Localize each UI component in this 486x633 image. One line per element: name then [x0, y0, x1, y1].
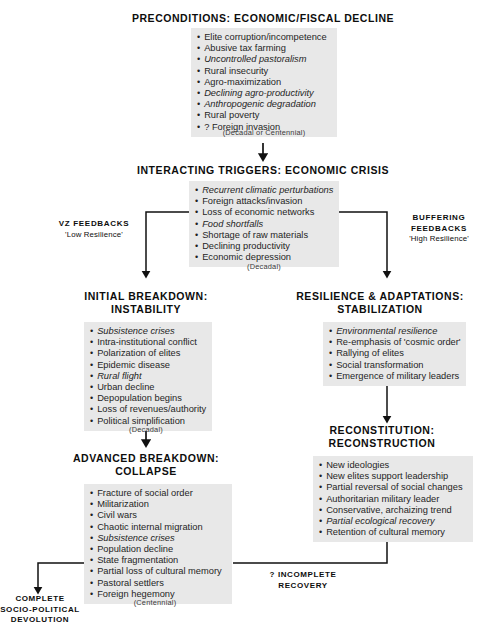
list-preconditions: Elite corruption/incompetenceAbusive tax… [197, 32, 331, 133]
box-reconstitution: New ideologiesNew elites support leaders… [313, 456, 473, 542]
list-item: Rural flight [90, 371, 206, 382]
list-item: Retention of cultural memory [319, 527, 467, 538]
list-item: Authoritarian military leader [319, 494, 467, 505]
period-label-3: (Decadal) [104, 425, 188, 434]
label-buffering-feedbacks: BUFFERING FEEDBACKS 'High Resilience' [395, 213, 483, 245]
list-item: Fracture of social order [90, 488, 226, 499]
list-item: Foreign attacks/invasion [195, 196, 333, 207]
label-incomplete-recovery: ? INCOMPLETE RECOVERY [248, 570, 358, 591]
heading-advanced-breakdown-l2: COLLAPSE [115, 465, 177, 477]
list-item: Depopulation begins [90, 393, 206, 404]
recovery-l2: RECOVERY [278, 581, 327, 590]
list-item: Declining agro-productivity [197, 88, 331, 99]
list-resilience: Environmental resilienceRe-emphasis of '… [329, 326, 460, 382]
devolution-l1: COMPLETE [15, 594, 64, 603]
list-item: Subsistence crises [90, 326, 206, 337]
list-advanced-breakdown: Fracture of social orderMilitarizationCi… [90, 488, 226, 600]
list-item: Pastoral settlers [90, 578, 226, 589]
heading-resilience: RESILIENCE & ADAPTATIONS: STABILIZATION [275, 290, 485, 315]
list-item: Loss of revenues/authority [90, 404, 206, 415]
heading-resilience-l1: RESILIENCE & ADAPTATIONS: [296, 290, 464, 302]
list-item: Social transformation [329, 360, 460, 371]
vz-feedbacks-subtitle: 'Low Resilience' [65, 230, 123, 239]
list-item: Food shortfalls [195, 219, 333, 230]
list-item: Partial reversal of social changes [319, 482, 467, 493]
buffering-feedbacks-title-l2: FEEDBACKS [411, 224, 467, 233]
heading-reconstitution: RECONSTITUTION: RECONSTRUCTION [292, 424, 472, 449]
box-initial-breakdown: Subsistence crisesIntra-institutional co… [84, 322, 212, 431]
list-item: Epidemic disease [90, 360, 206, 371]
devolution-l3: DEVOLUTION [11, 615, 69, 624]
list-item: Environmental resilience [329, 326, 460, 337]
heading-advanced-breakdown-l1: ADVANCED BREAKDOWN: [73, 452, 219, 464]
list-reconstitution: New ideologiesNew elites support leaders… [319, 460, 467, 538]
list-item: Abusive tax farming [197, 43, 331, 54]
vz-feedbacks-title: VZ FEEDBACKS [59, 219, 130, 228]
period-label-2: (Decadal) [193, 262, 335, 271]
list-item: Emergence of military leaders [329, 371, 460, 382]
list-item: Chaotic internal migration [90, 522, 226, 533]
box-triggers: Recurrent climatic perturbationsForeign … [189, 181, 339, 267]
list-item: Partial ecological recovery [319, 516, 467, 527]
heading-triggers: INTERACTING TRIGGERS: ECONOMIC CRISIS [66, 164, 460, 177]
list-item: Declining productivity [195, 241, 333, 252]
heading-initial-breakdown-l2: INSTABILITY [111, 303, 181, 315]
box-preconditions: Elite corruption/incompetenceAbusive tax… [191, 28, 337, 137]
list-item: Population decline [90, 544, 226, 555]
heading-advanced-breakdown: ADVANCED BREAKDOWN: COLLAPSE [42, 452, 250, 477]
list-initial-breakdown: Subsistence crisesIntra-institutional co… [90, 326, 206, 427]
list-item: Loss of economic networks [195, 207, 333, 218]
heading-preconditions: PRECONDITIONS: ECONOMIC/FISCAL DECLINE [70, 12, 456, 25]
list-item: Militarization [90, 499, 226, 510]
list-item: Shortage of raw materials [195, 230, 333, 241]
recovery-l1: ? INCOMPLETE [270, 570, 337, 579]
list-item: Conservative, archaizing trend [319, 505, 467, 516]
heading-reconstitution-l2: RECONSTRUCTION [329, 437, 436, 449]
label-complete-devolution: COMPLETE SOCIO-POLITICAL DEVOLUTION [0, 594, 80, 626]
list-item: State fragmentation [90, 555, 226, 566]
heading-initial-breakdown: INITIAL BREAKDOWN: INSTABILITY [56, 290, 236, 315]
devolution-l2: SOCIO-POLITICAL [0, 605, 80, 614]
list-item: Rural poverty [197, 110, 331, 121]
box-advanced-breakdown: Fracture of social orderMilitarizationCi… [84, 484, 232, 604]
list-item: Intra-institutional conflict [90, 337, 206, 348]
list-item: Anthropogenic degradation [197, 99, 331, 110]
list-item: Civil wars [90, 510, 226, 521]
list-item: Rural insecurity [197, 66, 331, 77]
arrow-triggers-to-initial-breakdown [146, 212, 189, 274]
period-label-1: (Decadal or Centennial) [193, 128, 335, 137]
list-item: Polarization of elites [90, 348, 206, 359]
buffering-feedbacks-title-l1: BUFFERING [413, 213, 466, 222]
arrow-triggers-to-resilience [339, 212, 387, 274]
list-triggers: Recurrent climatic perturbationsForeign … [195, 185, 333, 263]
box-resilience: Environmental resilienceRe-emphasis of '… [323, 322, 466, 386]
heading-resilience-l2: STABILIZATION [337, 303, 423, 315]
list-item: New elites support leadership [319, 471, 467, 482]
period-label-4: (Centennial) [113, 598, 197, 607]
heading-reconstitution-l1: RECONSTITUTION: [329, 424, 434, 436]
list-item: Re-emphasis of 'cosmic order' [329, 337, 460, 348]
list-item: New ideologies [319, 460, 467, 471]
list-item: Agro-maximization [197, 77, 331, 88]
list-item: Rallying of elites [329, 348, 460, 359]
label-vz-feedbacks: VZ FEEDBACKS 'Low Resilience' [48, 219, 140, 240]
list-item: Uncontrolled pastoralism [197, 54, 331, 65]
buffering-feedbacks-subtitle: 'High Resilience' [409, 234, 469, 243]
flowchart-canvas: PRECONDITIONS: ECONOMIC/FISCAL DECLINE E… [0, 0, 486, 633]
heading-initial-breakdown-l1: INITIAL BREAKDOWN: [84, 290, 207, 302]
list-item: Urban decline [90, 382, 206, 393]
list-item: Elite corruption/incompetence [197, 32, 331, 43]
list-item: Subsistence crises [90, 533, 226, 544]
list-item: Partial loss of cultural memory [90, 566, 226, 577]
list-item: Recurrent climatic perturbations [195, 185, 333, 196]
